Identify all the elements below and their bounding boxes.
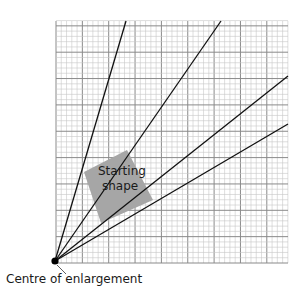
centre-of-enlargement-point [51, 257, 58, 264]
enlargement-diagram [0, 0, 303, 305]
ray-line [55, 76, 288, 261]
shape-label-line1: Starting [98, 164, 146, 178]
ray-line [55, 21, 221, 261]
enlargement-rays [55, 21, 288, 261]
centre-of-enlargement-label: Centre of enlargement [6, 272, 142, 286]
shape-label-line2: shape [102, 179, 138, 193]
